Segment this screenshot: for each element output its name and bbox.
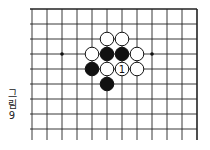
white-stone: [130, 47, 144, 61]
white-stone: [100, 62, 114, 76]
go-board: 1: [0, 0, 210, 150]
caption-number: 9: [6, 110, 18, 121]
stones: 1: [85, 32, 144, 91]
white-stone: 1: [115, 62, 129, 76]
caption-char-1: 그: [6, 88, 18, 99]
black-stone: [100, 77, 114, 91]
white-stone: [85, 47, 99, 61]
star-point: [150, 52, 154, 56]
white-stone: [100, 32, 114, 46]
caption-char-2: 림: [6, 99, 18, 110]
white-stone: [115, 32, 129, 46]
board-grid: [30, 9, 197, 140]
black-stone: [85, 62, 99, 76]
figure-caption: 그 림 9: [6, 88, 18, 121]
stone-move-number: 1: [119, 64, 125, 75]
star-point: [60, 52, 64, 56]
black-stone: [115, 47, 129, 61]
white-stone: [130, 62, 144, 76]
black-stone: [100, 47, 114, 61]
